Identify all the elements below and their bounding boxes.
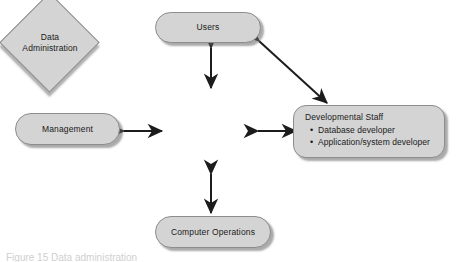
list-item-label: Application/system developer — [318, 136, 430, 148]
node-data-administration-label: Data Administration — [0, 0, 100, 86]
figure-caption: Figure 15 Data administration — [6, 252, 186, 262]
list-item: • Application/system developer — [310, 136, 436, 148]
node-data-administration-label-line2: Administration — [22, 43, 77, 53]
node-data-administration-label-line1: Data — [41, 32, 59, 42]
connector-users-developmental-staff — [259, 41, 327, 103]
list-item-label: Database developer — [318, 124, 395, 136]
node-computer-operations-label: Computer Operations — [171, 227, 255, 238]
diagram-canvas: Users Management Computer Operations Dat… — [0, 0, 456, 262]
node-developmental-staff[interactable]: Developmental Staff • Database developer… — [293, 105, 445, 158]
node-users[interactable]: Users — [155, 12, 261, 43]
bullet-icon: • — [310, 124, 318, 136]
node-management[interactable]: Management — [15, 113, 120, 145]
node-computer-operations[interactable]: Computer Operations — [155, 216, 271, 248]
node-data-administration[interactable]: Data Administration — [0, 0, 100, 86]
node-management-label: Management — [42, 124, 93, 135]
node-users-label: Users — [197, 22, 220, 33]
node-developmental-staff-title: Developmental Staff — [305, 112, 436, 123]
bullet-icon: • — [310, 136, 318, 148]
list-item: • Database developer — [310, 124, 436, 136]
developmental-staff-list: • Database developer • Application/syste… — [305, 124, 436, 148]
